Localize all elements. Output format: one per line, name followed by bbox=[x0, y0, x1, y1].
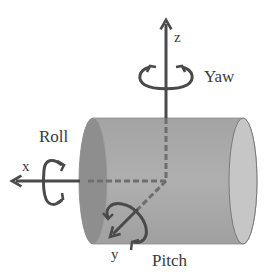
cylinder bbox=[79, 118, 257, 244]
roll-label: Roll bbox=[39, 127, 69, 146]
y-axis-label: y bbox=[111, 246, 119, 262]
rotation-axes-diagram: z Yaw x Roll y Pitch bbox=[0, 0, 272, 275]
cylinder-right-face bbox=[229, 118, 257, 244]
x-axis-label: x bbox=[22, 158, 30, 174]
z-axis: z bbox=[166, 24, 181, 118]
yaw-label: Yaw bbox=[204, 67, 235, 86]
z-axis-label: z bbox=[174, 29, 181, 45]
pitch-label: Pitch bbox=[152, 251, 187, 270]
